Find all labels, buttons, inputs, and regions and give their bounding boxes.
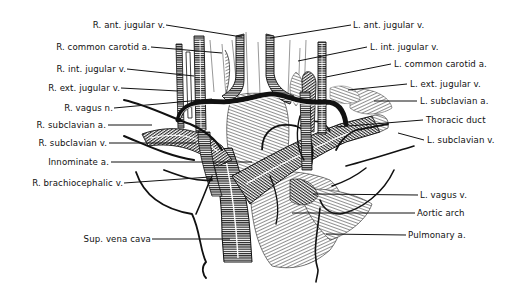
label-r-ant-jugular-v: R. ant. jugular v. [93, 20, 165, 30]
label-r-subclavian-v: R. subclavian v. [38, 138, 107, 148]
label-r-common-carotid-a: R. common carotid a. [56, 42, 150, 52]
leader-line-l-subclavian-v [398, 133, 424, 140]
leader-line-r-int-jugular-v [127, 69, 194, 76]
label-r-vagus-n: R. vagus n. [64, 103, 113, 113]
right-subclavian-vein-drawing [142, 129, 232, 166]
leader-line-r-ext-jugular-v [121, 88, 178, 91]
label-l-vagus-v: L. vagus v. [420, 190, 467, 200]
leader-line-l-ext-jugular-v [348, 84, 407, 90]
label-aortic-arch: Aortic arch [417, 208, 465, 218]
label-l-ant-jugular-v: L. ant. jugular v. [353, 20, 424, 30]
label-thoracic-duct: Thoracic duct [426, 115, 486, 125]
leader-line-l-int-jugular-v [298, 47, 367, 61]
label-l-subclavian-a: L. subclavian a. [420, 96, 489, 106]
label-r-subclavian-a: R. subclavian a. [37, 120, 106, 130]
label-r-innominate-a: Innominate a. [48, 157, 109, 167]
label-r-ext-jugular-v: R. ext. jugular v. [48, 83, 120, 93]
label-l-ext-jugular-v: L. ext. jugular v. [410, 79, 481, 89]
label-pulmonary-a: Pulmonary a. [408, 230, 466, 240]
label-l-common-carotid-a: L. common carotid a. [394, 59, 487, 69]
label-r-brachiocephalic-v: R. brachiocephalic v. [32, 178, 123, 188]
label-r-int-jugular-v: R. int. jugular v. [57, 64, 126, 74]
label-sup-vena-cava: Sup. vena cava [84, 234, 151, 244]
label-l-subclavian-v: L. subclavian v. [427, 135, 495, 145]
leader-line-r-ant-jugular-v [166, 25, 242, 37]
leader-line-l-common-carotid-a [326, 64, 391, 77]
leader-line-l-ant-jugular-v [270, 25, 351, 38]
anatomy-figure: R. ant. jugular v. R. common carotid a. … [0, 0, 516, 294]
label-l-int-jugular-v: L. int. jugular v. [370, 42, 439, 52]
